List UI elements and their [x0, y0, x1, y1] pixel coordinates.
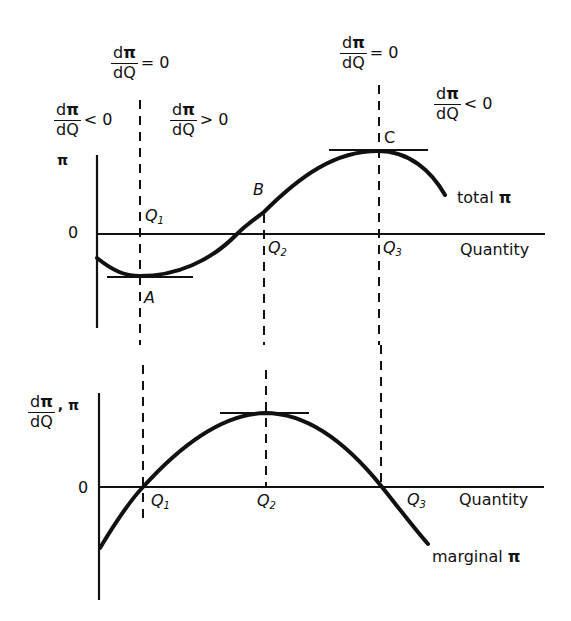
top-q2-label: Q2: [268, 240, 287, 258]
relation: > 0: [200, 112, 229, 128]
point-c-label: C: [384, 130, 395, 146]
pi-symbol: π: [182, 100, 195, 119]
y-label-suffix: , π: [58, 398, 79, 412]
pi-symbol: π: [446, 84, 459, 103]
relation: = 0: [141, 55, 170, 71]
annotation-dpi-dq-lt-0-left: dπ dQ < 0: [54, 102, 112, 139]
top-q3-label: Q3: [383, 240, 402, 258]
bottom-x-axis-label: Quantity: [459, 492, 528, 508]
pi-symbol: π: [40, 392, 53, 411]
num-d: d: [56, 100, 66, 119]
num-d: d: [342, 33, 352, 52]
top-y-axis-label: π: [57, 153, 68, 167]
den-dq: dQ: [54, 121, 81, 139]
marginal-profit-curve: [100, 413, 428, 548]
den-dq: dQ: [340, 54, 367, 72]
top-x-axis-label: Quantity: [460, 242, 529, 258]
top-origin-label: 0: [68, 225, 78, 241]
annotation-dpi-dq-eq-0-q1: dπ dQ = 0: [111, 45, 169, 82]
bottom-y-axis-label: dπ dQ , π: [28, 394, 79, 431]
top-chart: [97, 85, 545, 345]
annotation-dpi-dq-gt-0-mid: dπ dQ > 0: [170, 102, 228, 139]
den-dq: dQ: [170, 121, 197, 139]
pi-symbol: π: [66, 100, 79, 119]
bottom-q3-label: Q3: [407, 492, 426, 510]
num-d: d: [172, 100, 182, 119]
marginal-profit-label: marginal π: [432, 549, 520, 565]
total-profit-label: total π: [457, 190, 511, 206]
den-dq: dQ: [111, 64, 138, 82]
num-d: d: [30, 392, 40, 411]
num-d: d: [436, 84, 446, 103]
pi-symbol: π: [123, 43, 136, 62]
den-dq: dQ: [434, 105, 461, 123]
relation: = 0: [370, 45, 399, 61]
bottom-q2-label: Q2: [257, 493, 276, 511]
relation: < 0: [84, 112, 113, 128]
annotation-dpi-dq-lt-0-right: dπ dQ < 0: [434, 86, 492, 123]
annotation-dpi-dq-eq-0-q3: dπ dQ = 0: [340, 35, 398, 72]
den-dq: dQ: [28, 413, 55, 431]
point-b-label: B: [253, 182, 264, 198]
point-a-label: A: [144, 290, 155, 306]
top-q1-label: Q1: [145, 208, 164, 226]
relation: < 0: [464, 96, 493, 112]
bottom-q1-label: Q1: [151, 493, 170, 511]
num-d: d: [113, 43, 123, 62]
bottom-origin-label: 0: [78, 480, 88, 496]
pi-symbol: π: [352, 33, 365, 52]
